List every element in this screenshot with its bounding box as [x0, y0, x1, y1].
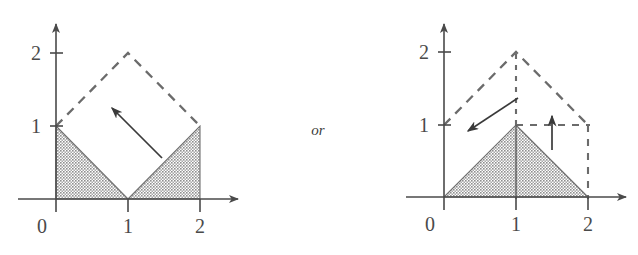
right-plot-xtick-label-0: 0	[425, 213, 435, 235]
shaded-v-region-path	[56, 126, 200, 199]
right-plot: 2 1 0 1 2	[406, 24, 626, 235]
left-plot: 2 1 0 1 2	[18, 24, 238, 237]
right-plot-xtick-label-2: 2	[583, 213, 593, 235]
left-plot-xtick-label-1: 1	[123, 215, 133, 237]
right-plot-ytick-label-1: 1	[419, 114, 429, 136]
right-plot-ytick-label-2: 2	[419, 41, 429, 63]
dashed-tent-reflection	[56, 53, 200, 126]
dashed-tent-path	[56, 53, 200, 126]
left-plot-ytick-label-2: 2	[31, 42, 41, 64]
left-shift-arrow	[468, 98, 518, 131]
left-plot-xtick-label-0: 0	[37, 215, 47, 237]
reflection-arrow	[112, 108, 162, 158]
figure-container: 2 1 0 1 2	[0, 0, 638, 255]
right-plot-xtick-label-1: 1	[511, 213, 521, 235]
left-plot-xtick-label-2: 2	[195, 215, 205, 237]
shaded-v-region	[56, 126, 200, 199]
left-plot-ytick-label-1: 1	[31, 115, 41, 137]
or-connector-label: or	[298, 122, 338, 139]
